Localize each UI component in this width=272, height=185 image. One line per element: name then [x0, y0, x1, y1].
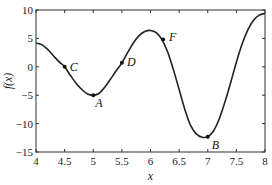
- x-tick-label: 7: [205, 155, 211, 167]
- x-tick-label: 6: [148, 155, 154, 167]
- y-tick-label: −5: [21, 89, 33, 101]
- x-tick-label: 7.5: [230, 155, 244, 167]
- point-a-label: A: [94, 96, 103, 110]
- point-d-marker: [120, 61, 124, 65]
- y-axis-label: f(x): [1, 73, 15, 90]
- point-f-label: F: [168, 30, 177, 44]
- point-d-label: D: [126, 55, 136, 69]
- x-tick-label: 5: [91, 155, 97, 167]
- y-tick-label: −15: [16, 146, 34, 158]
- x-tick-label: 6.5: [172, 155, 186, 167]
- function-plot: 44.555.566.577.581050−5−10−15 ABCDF x f(…: [0, 0, 272, 185]
- x-tick-label: 4: [33, 155, 39, 167]
- x-tick-label: 8: [262, 155, 268, 167]
- point-c-marker: [63, 65, 67, 69]
- y-tick-label: 10: [22, 4, 34, 16]
- y-tick-label: 0: [28, 61, 34, 73]
- x-tick-label: 4.5: [58, 155, 72, 167]
- y-tick-label: −10: [16, 118, 34, 130]
- function-curve: [36, 13, 265, 137]
- x-axis-label: x: [147, 169, 154, 183]
- point-b-marker: [206, 135, 210, 139]
- point-c-label: C: [70, 60, 79, 74]
- y-tick-label: 5: [28, 32, 34, 44]
- point-b-label: B: [212, 138, 220, 152]
- point-f-marker: [161, 38, 165, 42]
- x-tick-label: 5.5: [115, 155, 129, 167]
